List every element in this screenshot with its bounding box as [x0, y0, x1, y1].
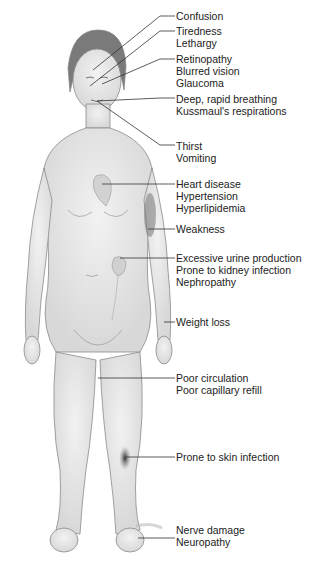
label-line: Hypertension: [176, 190, 245, 202]
label-line: Retinopathy: [176, 53, 240, 65]
label-line: Excessive urine production: [176, 252, 301, 264]
label-kidney: Excessive urine production Prone to kidn…: [176, 252, 301, 288]
label-line: Hyperlipidemia: [176, 202, 245, 214]
label-line: Poor circulation: [176, 372, 262, 384]
label-weight-loss: Weight loss: [176, 316, 230, 328]
arm-weakness-shading: [144, 193, 156, 237]
label-thirst: Thirst Vomiting: [176, 140, 216, 164]
label-nerve: Nerve damage Neuropathy: [176, 524, 245, 548]
label-line: Prone to kidney infection: [176, 264, 301, 276]
label-confusion: Confusion: [176, 10, 223, 22]
label-line: Kussmaul's respirations: [176, 105, 287, 117]
label-line: Neuropathy: [176, 536, 245, 548]
foot-nerve-shading: [136, 524, 162, 528]
label-line: Vomiting: [176, 152, 216, 164]
label-breathing: Deep, rapid breathing Kussmaul's respira…: [176, 93, 287, 117]
label-line: Weakness: [176, 223, 225, 235]
label-heart: Heart disease Hypertension Hyperlipidemi…: [176, 178, 245, 214]
label-line: Prone to skin infection: [176, 451, 279, 463]
label-weakness: Weakness: [176, 223, 225, 235]
body-silhouette: [24, 30, 172, 552]
label-line: Thirst: [176, 140, 216, 152]
label-line: Glaucoma: [176, 77, 240, 89]
label-line: Nerve damage: [176, 524, 245, 536]
label-skin-infection: Prone to skin infection: [176, 451, 279, 463]
label-line: Tiredness: [176, 25, 222, 37]
label-line: Heart disease: [176, 178, 245, 190]
leg-skin-infection-mark: [119, 446, 131, 470]
label-line: Weight loss: [176, 316, 230, 328]
label-eyes: Retinopathy Blurred vision Glaucoma: [176, 53, 240, 89]
label-line: Poor capillary refill: [176, 384, 262, 396]
label-tiredness: Tiredness Lethargy: [176, 25, 222, 49]
label-line: Lethargy: [176, 37, 222, 49]
label-line: Deep, rapid breathing: [176, 93, 287, 105]
label-circulation: Poor circulation Poor capillary refill: [176, 372, 262, 396]
label-line: Nephropathy: [176, 276, 301, 288]
label-line: Blurred vision: [176, 65, 240, 77]
label-line: Confusion: [176, 10, 223, 22]
